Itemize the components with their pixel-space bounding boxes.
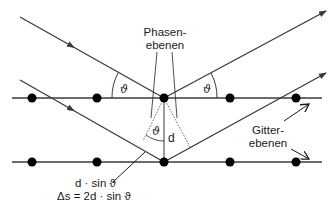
path-difference-leader <box>113 152 145 182</box>
reflected-ray-2 <box>164 73 326 162</box>
spacing-label: d <box>168 132 175 145</box>
incident-ray-1 <box>20 17 164 98</box>
phase-planes-label-line1: Phasen- <box>144 26 187 39</box>
phase-planes-label-line2: ebenen <box>146 39 184 52</box>
angle-label-left: ϑ <box>120 83 128 96</box>
angle-label-right: ϑ <box>203 83 211 96</box>
angle-arc-right <box>211 73 217 98</box>
incident-ray-2 <box>20 80 164 162</box>
angle-arc-left <box>112 73 118 98</box>
lattice-planes-label-line1: Gitter- <box>252 124 284 137</box>
angle-label-inner: ϑ <box>152 125 160 138</box>
reflected-ray-1 <box>164 11 326 98</box>
lattice-planes-label-line2: ebenen <box>249 137 287 150</box>
lattice-pointer-arrow-top <box>284 104 309 121</box>
path-half-label: d · sin ϑ <box>75 177 116 190</box>
path-difference-label: Δs = 2d · sin ϑ <box>57 190 131 203</box>
construction-dotted-lines <box>143 98 190 147</box>
lattice-pointer-arrow-bottom <box>291 149 309 159</box>
